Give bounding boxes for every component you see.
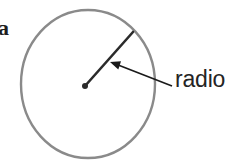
leader-arrow (110, 61, 172, 86)
partial-letter-label: a (0, 17, 9, 39)
circle-radius-diagram: radio a (0, 0, 236, 163)
center-dot (82, 83, 88, 89)
radius-label: radio (175, 68, 225, 91)
leader-arrow-head (110, 61, 121, 69)
radius-line (85, 32, 133, 86)
leader-arrow-shaft (113, 63, 172, 86)
